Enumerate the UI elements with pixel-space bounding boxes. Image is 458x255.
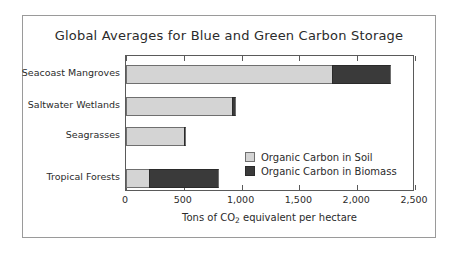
bar-row[interactable] xyxy=(126,169,219,188)
x-tick-bottom-5 xyxy=(415,185,416,190)
bar-row[interactable] xyxy=(126,97,236,116)
bar-row[interactable] xyxy=(126,127,186,146)
x-tick-bottom-3 xyxy=(299,185,300,190)
x-tick-label-0: 0 xyxy=(122,194,128,205)
x-tick-label-3: 1,500 xyxy=(285,194,312,205)
bar-segment-biomass[interactable] xyxy=(149,169,219,188)
x-tick-top-2 xyxy=(242,56,243,61)
chart-figure: Global Averages for Blue and Green Carbo… xyxy=(0,0,458,255)
x-tick-top-0 xyxy=(126,56,127,61)
bar-row[interactable] xyxy=(126,65,391,84)
x-tick-top-1 xyxy=(184,56,185,61)
legend-label: Organic Carbon in Soil xyxy=(261,152,373,163)
legend-swatch-soil-icon xyxy=(245,152,255,162)
x-axis-title-subscript: 2 xyxy=(235,216,240,225)
bar-segment-soil[interactable] xyxy=(126,65,332,84)
x-axis-title-before: Tons of CO xyxy=(182,212,235,223)
y-axis-label: Saltwater Wetlands xyxy=(0,99,120,110)
legend-item[interactable]: Organic Carbon in Soil xyxy=(245,150,397,164)
legend-swatch-biomass-icon xyxy=(245,166,255,176)
legend-label: Organic Carbon in Biomass xyxy=(261,166,397,177)
y-axis-label: Tropical Forests xyxy=(0,171,120,182)
x-tick-bottom-2 xyxy=(242,185,243,190)
x-tick-label-1: 500 xyxy=(174,194,192,205)
y-axis-label: Seacoast Mangroves xyxy=(0,67,120,78)
x-tick-label-5: 2,500 xyxy=(400,194,427,205)
chart-legend: Organic Carbon in SoilOrganic Carbon in … xyxy=(245,150,397,178)
bar-segment-biomass[interactable] xyxy=(184,127,186,146)
x-tick-label-4: 2,000 xyxy=(343,194,370,205)
x-axis-title-after: equivalent per hectare xyxy=(240,212,357,223)
x-tick-top-3 xyxy=(299,56,300,61)
bar-segment-biomass[interactable] xyxy=(232,97,235,116)
y-axis-label: Seagrasses xyxy=(0,129,120,140)
chart-title: Global Averages for Blue and Green Carbo… xyxy=(22,28,436,43)
x-tick-top-4 xyxy=(357,56,358,61)
legend-item[interactable]: Organic Carbon in Biomass xyxy=(245,164,397,178)
bar-segment-soil[interactable] xyxy=(126,169,149,188)
bar-segment-soil[interactable] xyxy=(126,97,232,116)
x-tick-top-5 xyxy=(415,56,416,61)
bar-segment-soil[interactable] xyxy=(126,127,184,146)
bar-segment-biomass[interactable] xyxy=(332,65,391,84)
x-axis-title: Tons of CO2 equivalent per hectare xyxy=(125,212,414,223)
x-tick-label-2: 1,000 xyxy=(227,194,254,205)
x-tick-bottom-4 xyxy=(357,185,358,190)
